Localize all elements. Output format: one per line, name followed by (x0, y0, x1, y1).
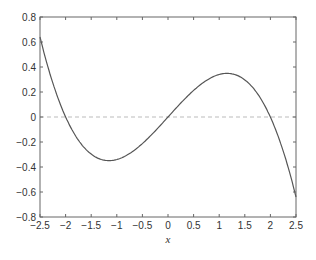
y-tick-label: 0.8 (22, 12, 36, 23)
x-axis-ticks: −2.5−2−1.5−1−0.500.511.522.5 (30, 17, 303, 231)
y-tick-label: −0.2 (16, 137, 36, 148)
x-tick-label: −1.5 (81, 220, 101, 231)
y-tick-label: 0.4 (22, 62, 36, 73)
x-tick-label: 2 (268, 220, 274, 231)
chart: −2.5−2−1.5−1−0.500.511.522.5 0.80.60.40.… (0, 0, 316, 260)
y-tick-label: 0.6 (22, 37, 36, 48)
x-tick-label: −0.5 (133, 220, 153, 231)
x-tick-label: 1.5 (238, 220, 252, 231)
y-tick-label: −0.6 (16, 187, 36, 198)
y-axis-ticks: 0.80.60.40.20−0.2−0.4−0.6−0.8 (16, 12, 296, 223)
y-tick-label: 0 (30, 112, 36, 123)
y-tick-label: −0.4 (16, 162, 36, 173)
x-tick-label: 0.5 (187, 220, 201, 231)
x-tick-label: 2.5 (289, 220, 303, 231)
x-tick-label: 1 (216, 220, 222, 231)
x-axis-label: x (165, 233, 171, 245)
y-tick-label: 0.2 (22, 87, 36, 98)
x-tick-label: 0 (165, 220, 171, 231)
y-tick-label: −0.8 (16, 212, 36, 223)
x-tick-label: −1 (111, 220, 123, 231)
x-tick-label: −2 (60, 220, 72, 231)
